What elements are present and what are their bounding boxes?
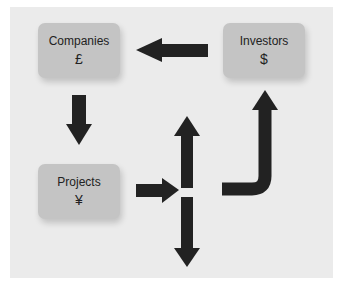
arrow-right-icon	[136, 178, 179, 203]
arrow-curved-up-icon	[222, 90, 278, 189]
arrow-left-icon	[136, 38, 208, 62]
arrows-layer	[0, 0, 343, 286]
arrow-down-icon	[66, 95, 92, 145]
arrow-up-icon	[174, 116, 200, 188]
arrow-down-icon	[174, 197, 200, 267]
